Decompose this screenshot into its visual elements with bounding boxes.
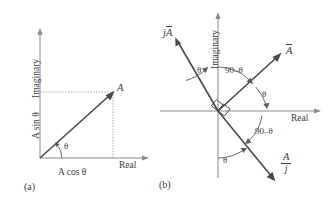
panel-a-real-axis-label: Real (119, 161, 136, 171)
panel-b-vector-a-label: A (286, 44, 292, 57)
panel-a-y-projection-label: A sin θ (32, 112, 42, 139)
panel-a-imaginary-axis-label: Imaginary (32, 59, 42, 98)
panel-a-angle-label: θ (64, 142, 68, 151)
panel-a-vector-tip-label: A (117, 83, 123, 94)
panel-b-angle-ninety-minus-theta-lower: 90–θ (255, 127, 273, 136)
panel-a-angle-arc (55, 142, 62, 158)
panel-a-graphics (37, 28, 149, 161)
panel-b-imaginary-axis-label: Imaginary (211, 30, 221, 69)
panel-b-vector-a-overline: A (286, 44, 292, 56)
panel-b-angle-ninety-minus-theta-upper: 90–θ (225, 66, 243, 75)
panel-b-vector-ja-overline: A (166, 26, 172, 38)
panel-b-caption: (b) (159, 180, 171, 190)
panel-b-graphics (160, 12, 321, 181)
panel-b-fraction-numerator: A (281, 152, 291, 164)
panel-b-vector-a-over-j (218, 111, 275, 181)
panel-b-fraction-denominator: j (281, 164, 291, 175)
panel-b-vector-ja-label: jA (163, 26, 172, 39)
panel-b-fraction: A j (281, 152, 291, 174)
panel-b-angle-theta-lower: θ (223, 156, 227, 165)
panel-b-angle-theta-upper-right: θ (262, 90, 266, 99)
panel-b-real-axis-label: Real (291, 114, 308, 124)
complex-plane-figure: Imaginary Real A θ A sin θ A cos θ (a) I… (0, 0, 333, 205)
panel-a-x-projection-label: A cos θ (58, 168, 86, 178)
panel-a-caption: (a) (24, 182, 35, 192)
panel-b-angle-theta-upper-left: θ (197, 66, 201, 75)
panel-a-phasor-vector (40, 91, 115, 158)
panel-b-vector-a-over-j-label: A j (281, 152, 291, 174)
